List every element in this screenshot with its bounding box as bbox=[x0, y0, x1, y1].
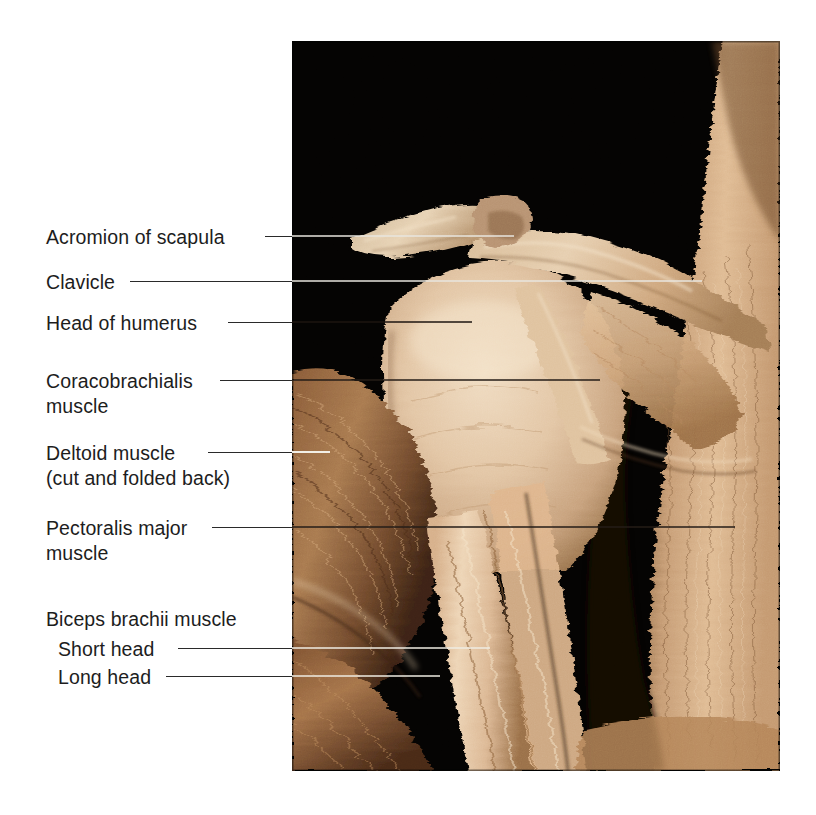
label-biceps-long-head: Long head bbox=[46, 665, 151, 690]
leader-line-clavicle bbox=[130, 281, 292, 282]
label-text-primary: Pectoralis major bbox=[46, 517, 187, 539]
label-biceps-short-head: Short head bbox=[46, 637, 154, 662]
label-head-of-humerus: Head of humerus bbox=[46, 311, 197, 336]
anatomy-figure: Acromion of scapulaClavicleHead of humer… bbox=[0, 0, 816, 815]
label-clavicle: Clavicle bbox=[46, 270, 115, 295]
label-text-primary: Long head bbox=[58, 666, 151, 688]
label-text-primary: Biceps brachii muscle bbox=[46, 608, 237, 630]
label-text-primary: Acromion of scapula bbox=[46, 226, 225, 248]
label-text-primary: Short head bbox=[58, 638, 154, 660]
leader-line-pectoralis-major-muscle bbox=[212, 527, 292, 528]
dissection-photo-canvas bbox=[292, 41, 780, 771]
leader-line-biceps-long-head bbox=[166, 676, 292, 677]
leader-line-coracobrachialis-muscle bbox=[220, 380, 292, 381]
label-text-primary: Head of humerus bbox=[46, 312, 197, 334]
label-coracobrachialis-muscle: Coracobrachialismuscle bbox=[46, 369, 193, 419]
label-acromion-of-scapula: Acromion of scapula bbox=[46, 225, 225, 250]
label-pectoralis-major-muscle: Pectoralis majormuscle bbox=[46, 516, 187, 566]
leader-line-biceps-short-head bbox=[178, 648, 292, 649]
leader-line-head-of-humerus bbox=[228, 322, 292, 323]
dissection-photograph bbox=[292, 41, 780, 771]
label-biceps-brachii-muscle: Biceps brachii muscle bbox=[46, 607, 237, 632]
leader-line-deltoid-muscle bbox=[208, 452, 292, 453]
leader-line-acromion-of-scapula bbox=[265, 236, 292, 237]
label-text-secondary: muscle bbox=[46, 541, 187, 566]
label-text-primary: Coracobrachialis bbox=[46, 370, 193, 392]
label-deltoid-muscle: Deltoid muscle(cut and folded back) bbox=[46, 441, 230, 491]
label-text-secondary: (cut and folded back) bbox=[46, 466, 230, 491]
label-text-primary: Clavicle bbox=[46, 271, 115, 293]
label-text-primary: Deltoid muscle bbox=[46, 442, 175, 464]
label-text-secondary: muscle bbox=[46, 394, 193, 419]
